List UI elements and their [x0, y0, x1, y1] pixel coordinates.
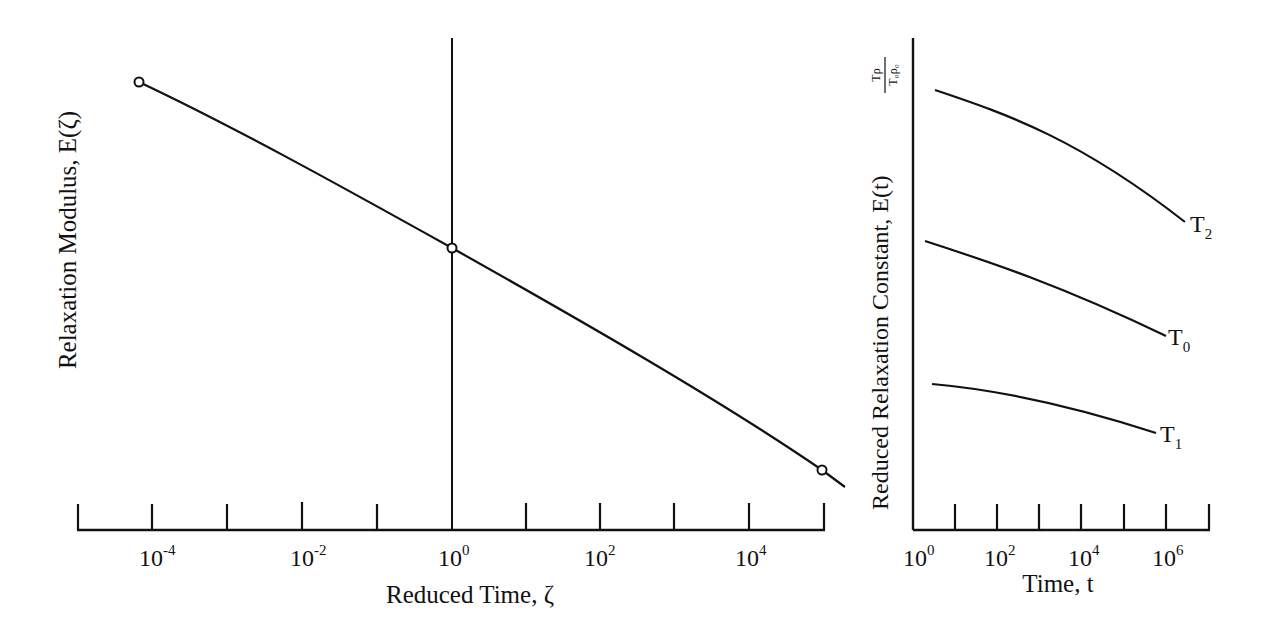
left-x-axis-label: Reduced Time, ζ — [386, 581, 554, 608]
curve-t1 — [932, 384, 1156, 433]
curve-label-t1: T1 — [1160, 421, 1182, 452]
data-point-marker — [448, 244, 457, 253]
svg-text:100: 100 — [438, 542, 470, 571]
svg-text:102: 102 — [584, 542, 616, 571]
curve-label-t2: T2 — [1190, 211, 1212, 242]
svg-text:10-2: 10-2 — [290, 542, 327, 571]
svg-text:104: 104 — [735, 542, 767, 571]
right-x-tick-labels: 100 102 104 106 — [903, 542, 1184, 571]
left-chart: Relaxation Modulus, E(ζ) 10-4 10-2 — [54, 38, 845, 608]
data-point-marker — [818, 466, 827, 475]
svg-text:T₀ρ₀: T₀ρ₀ — [886, 64, 900, 86]
curve-t0 — [925, 241, 1166, 336]
right-chart: Reduced Relaxation Constant, E(t) Tρ T₀ρ… — [867, 38, 1212, 597]
svg-text:100: 100 — [903, 542, 935, 571]
right-y-axis-factor: Tρ T₀ρ₀ — [869, 57, 900, 93]
svg-text:10-4: 10-4 — [139, 542, 176, 571]
svg-text:106: 106 — [1152, 542, 1184, 571]
left-y-axis-label: Relaxation Modulus, E(ζ) — [54, 111, 82, 369]
svg-text:Tρ: Tρ — [869, 68, 883, 81]
data-point-marker — [135, 78, 144, 87]
left-x-tick-labels: 10-4 10-2 100 102 104 — [139, 542, 767, 571]
curve-label-t0: T0 — [1168, 324, 1190, 355]
curve-t2 — [935, 90, 1185, 222]
figure: Relaxation Modulus, E(ζ) 10-4 10-2 — [0, 0, 1267, 637]
right-x-axis-label: Time, t — [1022, 570, 1093, 597]
svg-text:102: 102 — [984, 542, 1016, 571]
svg-text:104: 104 — [1068, 542, 1100, 571]
master-curve — [139, 82, 845, 487]
right-x-ticks — [955, 504, 1209, 530]
right-y-axis-label: Reduced Relaxation Constant, E(t) — [867, 175, 893, 510]
